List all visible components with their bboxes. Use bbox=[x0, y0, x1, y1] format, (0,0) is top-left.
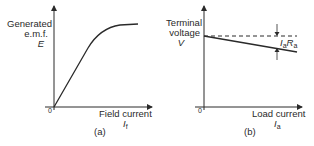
panel-a-origin: 0 bbox=[48, 106, 52, 116]
panel-b-origin: 0 bbox=[198, 106, 202, 116]
panel-b-x-symbol: Ia bbox=[274, 119, 281, 132]
panel-a-magnetization-curve bbox=[54, 24, 138, 107]
panel-a-y-symbol: E bbox=[4, 39, 44, 49]
panel-b-x-label: Load current bbox=[252, 109, 305, 119]
panel-b-caption: (b) bbox=[244, 127, 256, 137]
panel-a-caption: (a) bbox=[94, 127, 106, 137]
panel-b-y-label-line2: voltage bbox=[150, 28, 200, 38]
panel-b-axes bbox=[195, 6, 302, 110]
panel-b-y-symbol: V bbox=[150, 38, 184, 48]
panel-a-x-symbol: If bbox=[123, 119, 128, 132]
panel-b-voltage-drop-label: IaRa bbox=[280, 38, 297, 51]
panel-b-voltage-drop-marker bbox=[275, 24, 280, 60]
